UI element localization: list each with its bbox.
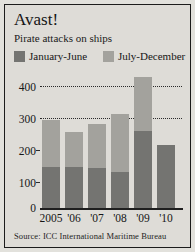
legend-item-january-june: January-June <box>14 49 87 63</box>
chart-legend: January-June July-December <box>14 49 189 64</box>
bar-segment-january-june <box>88 168 106 208</box>
plot-area: 400 300 200 100 0 <box>5 67 190 225</box>
legend-label-july-december: July-December <box>118 50 185 62</box>
bar-segment-january-june <box>111 172 129 209</box>
x-tick-label-2010: '10 <box>153 212 179 225</box>
x-axis-labels: 2005 '06 '07 '08 '09 '10 <box>40 212 182 226</box>
legend-label-january-june: January-June <box>29 50 87 62</box>
chart-title: Avast! <box>14 10 58 29</box>
bar-series <box>40 67 182 208</box>
bar-segment-january-june <box>65 167 83 208</box>
bar-segment-january-june <box>134 131 152 208</box>
figure-frame: Avast! Pirate attacks on ships January-J… <box>4 4 191 248</box>
figure-inner: Avast! Pirate attacks on ships January-J… <box>5 5 190 247</box>
legend-swatch-july-december <box>103 51 114 62</box>
bar-segment-july-december <box>42 120 60 168</box>
source-note: Source: ICC International Maritime Burea… <box>14 231 166 241</box>
chart-subtitle: Pirate attacks on ships <box>14 32 112 45</box>
chart-figure: Avast! Pirate attacks on ships January-J… <box>0 0 195 252</box>
y-tick-label: 0 <box>30 203 36 214</box>
y-axis-labels: 400 300 200 100 0 <box>5 67 38 210</box>
legend-swatch-january-june <box>14 51 25 62</box>
bar-segment-january-june <box>157 145 175 208</box>
y-tick-label: 400 <box>19 82 36 93</box>
y-tick-label: 300 <box>19 114 36 125</box>
bar-segment-july-december <box>134 77 152 131</box>
bar-segment-july-december <box>65 132 83 168</box>
y-tick-label: 200 <box>19 146 36 157</box>
bar-segment-july-december <box>88 124 106 168</box>
bar-segment-january-june <box>42 167 60 208</box>
y-tick-label: 100 <box>19 178 36 189</box>
bar-segment-july-december <box>111 114 129 171</box>
plot-canvas <box>40 67 182 208</box>
x-axis-line <box>40 208 183 210</box>
legend-item-july-december: July-December <box>103 49 185 63</box>
